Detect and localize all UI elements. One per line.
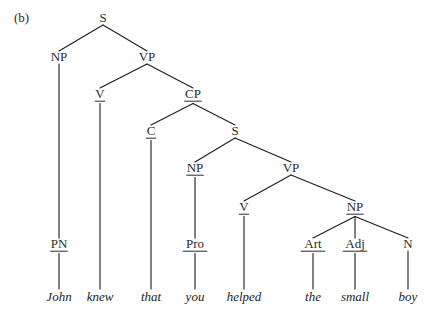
tree-edge: [235, 138, 291, 162]
tree-node-label: NP: [347, 199, 364, 214]
tree-edge: [355, 217, 408, 239]
tree-edge: [100, 64, 147, 88]
tree-leaf-word: you: [184, 289, 205, 304]
tree-node-v: V: [239, 199, 249, 214]
tree-node-pro: Pro: [183, 236, 208, 251]
tree-edge: [59, 25, 103, 51]
tree-node-label: Art: [304, 236, 322, 251]
tree-node-label: VP: [283, 160, 300, 175]
tree-node-label: V: [95, 86, 105, 101]
tree-node-label: N: [403, 236, 413, 251]
tree-leaf-word: small: [341, 289, 370, 304]
tree-node-n: N: [403, 236, 413, 251]
tree-node-cp: CP: [184, 86, 201, 101]
tree-edge: [103, 25, 147, 51]
tree-leaf-word: helped: [227, 289, 262, 304]
tree-edge: [151, 104, 193, 126]
tree-node-label: NP: [51, 49, 68, 64]
tree-node-s: S: [231, 123, 238, 138]
tree-node-np: NP: [186, 160, 203, 175]
tree-node-c: C: [146, 123, 156, 138]
tree-node-s: S: [99, 10, 106, 25]
tree-node-label: Adj: [345, 236, 365, 251]
tree-leaf-word: the: [305, 289, 321, 304]
tree-edge: [244, 175, 291, 201]
tree-node-label: V: [239, 199, 249, 214]
tree-node-label: VP: [139, 49, 156, 64]
tree-nodes-group: SNPVPVCPCSNPVPVNPPNProArtAdjN: [50, 10, 413, 251]
tree-node-vp: VP: [139, 49, 156, 64]
tree-node-label: C: [147, 123, 156, 138]
tree-node-label: NP: [187, 160, 204, 175]
tree-node-label: Pro: [186, 236, 204, 251]
tree-node-pn: PN: [50, 236, 68, 251]
tree-node-v: V: [95, 86, 105, 101]
tree-edge: [313, 217, 355, 239]
syntax-tree-figure: (b) SNPVPVCPCSNPVPVNPPNProArtAdjN Johnkn…: [0, 0, 433, 320]
tree-node-np: NP: [51, 49, 68, 64]
tree-leaf-word: that: [141, 289, 162, 304]
tree-leaf-word: knew: [87, 289, 114, 304]
tree-node-label: PN: [51, 236, 68, 251]
tree-node-label: S: [99, 10, 106, 25]
tree-edge: [291, 175, 355, 201]
tree-leaf-word: John: [46, 289, 71, 304]
tree-edge: [195, 138, 235, 162]
tree-leaves-group: Johnknewthatyouhelpedthesmallboy: [46, 289, 417, 304]
tree-node-label: S: [231, 123, 238, 138]
tree-leaf-word: boy: [399, 289, 418, 304]
syntax-tree-canvas: SNPVPVCPCSNPVPVNPPNProArtAdjN Johnknewth…: [0, 0, 433, 320]
tree-edge: [147, 64, 193, 88]
tree-edge: [193, 104, 235, 126]
tree-node-vp: VP: [283, 160, 300, 175]
tree-node-adj: Adj: [343, 236, 368, 251]
tree-node-np: NP: [346, 199, 363, 214]
tree-node-art: Art: [301, 236, 326, 251]
tree-node-label: CP: [185, 86, 201, 101]
